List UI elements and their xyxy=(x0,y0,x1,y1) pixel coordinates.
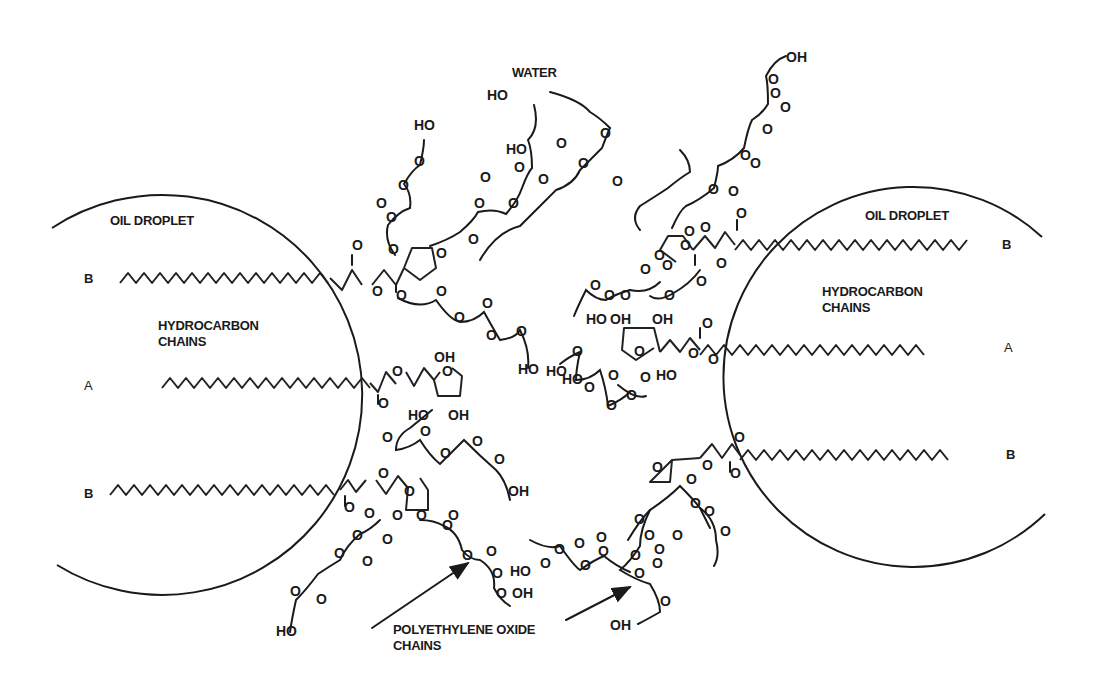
oxygen-atom: O xyxy=(514,159,525,175)
oxygen-atom: O xyxy=(398,177,409,193)
oxygen-atom: O xyxy=(486,327,497,343)
right-chain-B-bottom xyxy=(740,450,948,460)
oxygen-atom: O xyxy=(734,429,745,445)
oxygen-atom: O xyxy=(584,379,595,395)
oxygen-atom: O xyxy=(600,125,611,141)
hydroxyl-group: OH xyxy=(448,407,469,423)
oxygen-atom: O xyxy=(640,261,651,277)
oxygen-atom: O xyxy=(420,423,431,439)
oxygen-atom: O xyxy=(662,257,673,273)
hydroxyl-group: HO xyxy=(408,407,429,423)
oxygen-atom: O xyxy=(414,153,425,169)
chain-label-left-top: B xyxy=(84,271,93,287)
oxygen-atom: O xyxy=(352,237,363,253)
diagram-canvas: OOOOOHOOOOOOOOOHOOOOOOHOOOOOOOHOOHOOOHOO… xyxy=(0,0,1098,692)
oxygen-atom: O xyxy=(392,507,403,523)
oxygen-atom: O xyxy=(688,345,699,361)
oxygen-atom: O xyxy=(634,511,645,527)
oxygen-atom: O xyxy=(700,219,711,235)
oxygen-atom: O xyxy=(486,543,497,559)
hydroxyl-group: HO xyxy=(414,117,435,133)
oxygen-atom: O xyxy=(634,343,645,359)
chain-label-right-top: B xyxy=(1002,237,1011,253)
oxygen-atom: O xyxy=(290,583,301,599)
oxygen-atom: O xyxy=(516,323,527,339)
oxygen-atom: O xyxy=(578,155,589,171)
hydroxyl-group: OH xyxy=(610,311,631,327)
oxygen-atom: O xyxy=(780,99,791,115)
peo-label-line1: POLYETHYLENE OXIDE xyxy=(393,622,535,638)
oxygen-atom: O xyxy=(436,283,447,299)
oxygen-atom: O xyxy=(590,277,601,293)
left-chain-A xyxy=(162,378,370,388)
oxygen-atom: O xyxy=(496,585,507,601)
oxygen-atom: O xyxy=(468,231,479,247)
chain-label-left-bottom: B xyxy=(84,486,93,502)
oxygen-atom: O xyxy=(472,433,483,449)
oxygen-atom: O xyxy=(378,465,389,481)
oxygen-atom: O xyxy=(608,367,619,383)
oxygen-atom: O xyxy=(690,495,701,511)
hydroxyl-group: OH xyxy=(512,585,533,601)
oxygen-atom: O xyxy=(672,527,683,543)
oxygen-atom: O xyxy=(482,295,493,311)
oxygen-atom: O xyxy=(344,499,355,515)
peo-label-line2: CHAINS xyxy=(393,638,535,654)
oxygen-atom: O xyxy=(364,505,375,521)
hydroxyl-group: HO xyxy=(276,623,297,639)
oxygen-atom: O xyxy=(540,555,551,571)
oxygen-atom: O xyxy=(378,395,389,411)
hydroxyl-group: HO xyxy=(510,563,531,579)
oxygen-atom: O xyxy=(396,287,407,303)
hydroxyl-group: OH xyxy=(652,311,673,327)
oxygen-atom: O xyxy=(352,527,363,543)
hydroxyl-group: HO xyxy=(518,361,539,377)
oxygen-atom: O xyxy=(474,195,485,211)
oxygen-atom: O xyxy=(728,183,739,199)
left-hydrocarbon-line1: HYDROCARBON xyxy=(158,318,259,334)
arrow-to-peo-right xyxy=(566,587,630,620)
oxygen-atom: O xyxy=(686,471,697,487)
chain-label-left-mid: A xyxy=(84,378,92,394)
oxygen-atom: O xyxy=(480,169,491,185)
left-hydrocarbon-label: HYDROCARBON CHAINS xyxy=(158,318,259,350)
oxygen-atom: O xyxy=(416,507,427,523)
oxygen-atom: O xyxy=(612,173,623,189)
oxygen-atom: O xyxy=(684,223,695,239)
oxygen-atom: O xyxy=(556,135,567,151)
oxygen-atom: O xyxy=(386,209,397,225)
hydroxyl-group: HO xyxy=(487,87,508,103)
oxygen-atom: O xyxy=(720,523,731,539)
right-hydrocarbon-line2: CHAINS xyxy=(822,300,923,316)
oxygen-atom: O xyxy=(572,343,583,359)
left-oil-droplet-label: OIL DROPLET xyxy=(110,213,194,229)
oxygen-atom: O xyxy=(392,363,403,379)
right-oil-droplet-label: OIL DROPLET xyxy=(865,208,949,224)
hydroxyl-group: HO xyxy=(656,367,677,383)
hydroxyl-group: OH xyxy=(610,617,631,633)
oxygen-atom: O xyxy=(660,593,671,609)
left-chain-B-bottom xyxy=(110,485,334,495)
oxygen-atom: O xyxy=(382,531,393,547)
right-chain-A xyxy=(700,345,924,355)
oxygen-atom: O xyxy=(598,543,609,559)
oxygen-atom: O xyxy=(630,547,641,563)
right-chain-B-top xyxy=(735,240,967,250)
oxygen-atom: O xyxy=(440,445,451,461)
hydroxyl-group: HO xyxy=(586,311,607,327)
oxygen-atom: O xyxy=(334,545,345,561)
oxygen-atom: O xyxy=(436,245,447,261)
oxygen-atom: O xyxy=(554,541,565,557)
oxygen-atom: O xyxy=(442,517,453,533)
oxygen-atom: O xyxy=(454,309,465,325)
oxygen-atom: O xyxy=(372,283,383,299)
oxygen-atom: O xyxy=(404,483,415,499)
oxygen-atom: O xyxy=(716,255,727,271)
oxygen-atom: O xyxy=(606,397,617,413)
oxygen-atom: O xyxy=(696,273,707,289)
chain-label-right-bottom: B xyxy=(1006,447,1015,463)
oxygen-atom: O xyxy=(442,363,453,379)
oxygen-atom: O xyxy=(604,287,615,303)
oxygen-atom: O xyxy=(736,205,747,221)
oxygen-atom: O xyxy=(388,241,399,257)
